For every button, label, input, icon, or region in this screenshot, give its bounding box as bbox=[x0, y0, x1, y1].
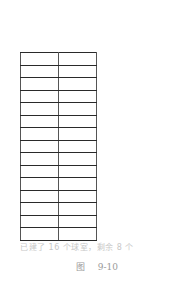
table-cell bbox=[59, 128, 97, 141]
faint-note-text: 已建了 16 个球室，剩余 8 个 bbox=[20, 241, 180, 252]
table-cell bbox=[21, 78, 59, 91]
table-cell bbox=[59, 165, 97, 178]
table-row bbox=[21, 115, 97, 128]
table-cell bbox=[21, 140, 59, 153]
table-row bbox=[21, 190, 97, 203]
table-cell bbox=[21, 115, 59, 128]
table-cell bbox=[21, 178, 59, 191]
table-cell bbox=[59, 90, 97, 103]
figure-label: 图 bbox=[76, 262, 85, 272]
table-cell bbox=[59, 65, 97, 78]
table-row bbox=[21, 215, 97, 228]
table-cell bbox=[21, 153, 59, 166]
table-cell bbox=[21, 203, 59, 216]
table-row bbox=[21, 90, 97, 103]
table-cell bbox=[59, 153, 97, 166]
table-row bbox=[21, 65, 97, 78]
table-cell bbox=[59, 103, 97, 116]
table-cell bbox=[21, 165, 59, 178]
table-row bbox=[21, 153, 97, 166]
table-cell bbox=[21, 190, 59, 203]
table-cell bbox=[59, 140, 97, 153]
table-row bbox=[21, 103, 97, 116]
table-cell bbox=[59, 215, 97, 228]
table-row bbox=[21, 203, 97, 216]
table-cell bbox=[21, 65, 59, 78]
table-cell bbox=[21, 228, 59, 241]
table-cell bbox=[21, 53, 59, 66]
table-cell bbox=[59, 228, 97, 241]
table-row bbox=[21, 53, 97, 66]
table-cell bbox=[59, 178, 97, 191]
table-cell bbox=[59, 53, 97, 66]
grid-body bbox=[21, 53, 97, 241]
table-row bbox=[21, 228, 97, 241]
table-cell bbox=[21, 128, 59, 141]
empty-grid-table bbox=[20, 52, 97, 241]
figure-number: 9-10 bbox=[98, 262, 118, 272]
table-row bbox=[21, 165, 97, 178]
table-cell bbox=[59, 115, 97, 128]
table-row bbox=[21, 178, 97, 191]
table-cell bbox=[59, 78, 97, 91]
figure-caption: 图 9-10 bbox=[0, 260, 194, 273]
table-row bbox=[21, 78, 97, 91]
table-cell bbox=[21, 90, 59, 103]
table-cell bbox=[21, 215, 59, 228]
table-row bbox=[21, 140, 97, 153]
table-cell bbox=[21, 103, 59, 116]
table-cell bbox=[59, 190, 97, 203]
table-row bbox=[21, 128, 97, 141]
table-cell bbox=[59, 203, 97, 216]
